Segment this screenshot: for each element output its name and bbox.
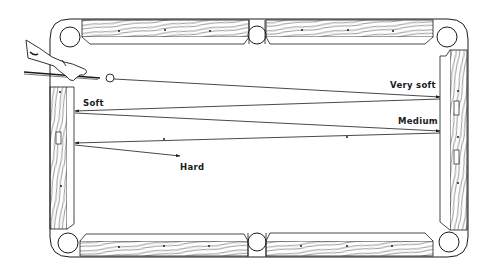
rail-sight	[454, 101, 459, 115]
top-rail-right	[266, 20, 433, 44]
foot-spot	[346, 136, 348, 138]
diamond-marker	[60, 185, 62, 187]
corner-pocket-top-left	[60, 27, 80, 47]
diamond-marker	[457, 90, 459, 92]
corner-pocket-top-right	[437, 27, 457, 47]
corner-pocket-bottom-left	[58, 233, 78, 253]
rail-sight	[56, 132, 61, 144]
diamond-marker	[164, 29, 166, 31]
pockets	[58, 26, 459, 253]
corner-pocket-bottom-right	[439, 232, 459, 252]
diamond-marker	[300, 245, 302, 247]
diamond-marker	[163, 245, 165, 247]
diamond-marker	[118, 246, 120, 248]
bottom-rail-right	[266, 233, 433, 256]
bottom-rail-left	[80, 234, 248, 256]
label-medium: Medium	[398, 116, 438, 126]
diamond-marker	[392, 30, 394, 32]
right-rail	[440, 50, 467, 230]
billiard-table-diagram	[0, 0, 488, 272]
ball-paths	[75, 79, 440, 156]
label-hard: Hard	[180, 162, 204, 172]
path-hard-back	[75, 133, 440, 143]
top-rail-left	[82, 20, 249, 44]
side-pocket-bottom	[248, 233, 266, 251]
label-very-soft: Very soft	[390, 80, 436, 90]
left-rail	[50, 87, 74, 229]
label-soft: Soft	[83, 98, 104, 108]
diamond-marker	[457, 182, 459, 184]
center-spot	[163, 138, 165, 140]
rail-sight	[454, 150, 459, 164]
path-hard-return	[75, 145, 180, 156]
path-medium-out	[75, 113, 440, 131]
path-soft	[75, 99, 440, 111]
cue-ball	[106, 74, 114, 82]
diamond-marker	[391, 245, 393, 247]
diamond-marker	[346, 245, 348, 247]
diamond-marker	[457, 136, 459, 138]
diamond-marker	[301, 29, 303, 31]
diamond-marker	[209, 30, 211, 32]
diamond-marker	[208, 245, 210, 247]
diamond-marker	[118, 30, 120, 32]
hand-with-cue	[24, 40, 100, 81]
diamond-marker	[347, 29, 349, 31]
side-pocket-top	[248, 26, 266, 44]
diamond-marker	[59, 91, 61, 93]
